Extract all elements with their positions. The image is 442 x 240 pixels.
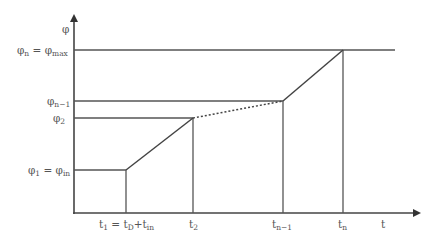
ramp-t2-tn1-dotted bbox=[193, 101, 283, 118]
y-label-phi-2: φ2 bbox=[53, 113, 65, 126]
label-sub: n bbox=[342, 223, 347, 232]
label-sub: 2 bbox=[60, 117, 65, 126]
label-plus: +t bbox=[134, 218, 147, 230]
x-axis-label-text: t bbox=[381, 218, 385, 230]
label-eq: = t bbox=[108, 218, 128, 230]
y-axis-label: φ bbox=[62, 24, 69, 35]
label-sub2: in bbox=[63, 169, 70, 178]
y-label-phi-n: φn = φmax bbox=[17, 45, 68, 58]
label-sub3: in bbox=[147, 223, 154, 232]
ramp-t1-t2 bbox=[126, 118, 193, 170]
y-label-phi-n1: φn−1 bbox=[47, 96, 70, 109]
x-label-t2: t2 bbox=[189, 219, 198, 232]
x-label-t1: t1 = tD+tin bbox=[99, 219, 154, 232]
x-label-tn: tn bbox=[338, 219, 347, 232]
label-sub: 2 bbox=[193, 223, 198, 232]
label-sub: n−1 bbox=[276, 223, 292, 232]
label-eq: = φ bbox=[40, 164, 63, 176]
x-label-tn1: tn−1 bbox=[272, 219, 292, 232]
label-sub: n−1 bbox=[54, 100, 70, 109]
y-axis-label-text: φ bbox=[62, 23, 69, 35]
x-axis-label: t bbox=[381, 219, 385, 230]
label-sub2: max bbox=[52, 49, 68, 58]
y-label-phi-1: φ1 = φin bbox=[28, 165, 70, 178]
diagram-canvas bbox=[0, 0, 442, 240]
ramp-tn1-tn bbox=[283, 50, 343, 101]
label-eq: = φ bbox=[29, 44, 52, 56]
